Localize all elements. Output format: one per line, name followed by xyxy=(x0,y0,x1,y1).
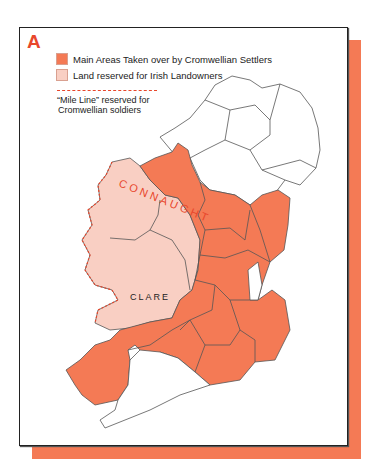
panel-letter: A xyxy=(27,31,41,53)
legend-mile-line xyxy=(57,90,157,91)
legend-label-irish: Land reserved for Irish Landowners xyxy=(73,70,222,81)
legend-swatch-irish xyxy=(56,69,68,81)
legend-mile-line-label-1: “Mile Line” reserved for xyxy=(57,95,150,105)
legend-swatch-settlers xyxy=(56,53,68,65)
legend-mile-line-label-2: Cromwellian soldiers xyxy=(58,105,141,115)
legend-label-settlers: Main Areas Taken over by Cromwellian Set… xyxy=(73,54,272,65)
label-clare: CLARE xyxy=(130,292,170,302)
